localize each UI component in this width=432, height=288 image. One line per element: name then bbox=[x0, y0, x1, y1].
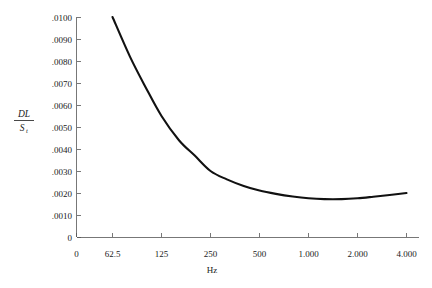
x-tick-label: 500 bbox=[253, 249, 267, 259]
x-tick-label: 2.000 bbox=[347, 249, 368, 259]
x-tick-label: 0 bbox=[74, 249, 79, 259]
y-tick-label: .0070 bbox=[52, 79, 73, 89]
y-axis-title: DL S t bbox=[14, 109, 34, 134]
y-axis-title-denominator-subscript: t bbox=[26, 127, 28, 134]
y-axis-title-numerator: DL bbox=[17, 109, 30, 119]
x-axis-tick-labels: 0 62.5 125 250 500 1.000 2.000 4.000 bbox=[74, 249, 417, 259]
y-tick-label: .0050 bbox=[52, 123, 73, 133]
x-tick-label: 125 bbox=[155, 249, 169, 259]
y-tick-label: .0030 bbox=[52, 167, 73, 177]
y-tick-label: .0020 bbox=[52, 189, 73, 199]
y-axis-ticks bbox=[77, 17, 82, 237]
x-tick-label: 62.5 bbox=[105, 249, 121, 259]
x-tick-label: 250 bbox=[204, 249, 218, 259]
y-tick-label: .0040 bbox=[52, 145, 73, 155]
data-series-line bbox=[113, 17, 407, 199]
y-axis-tick-labels: .0100 .0090 .0080 .0070 .0060 .0050 .004… bbox=[52, 13, 73, 243]
x-tick-label: 4.000 bbox=[396, 249, 417, 259]
y-tick-label: .0100 bbox=[52, 13, 73, 23]
y-tick-label: .0090 bbox=[52, 35, 73, 45]
x-axis-ticks bbox=[77, 233, 407, 238]
y-tick-label: .0080 bbox=[52, 57, 73, 67]
chart-svg: .0100 .0090 .0080 .0070 .0060 .0050 .004… bbox=[0, 0, 432, 288]
x-tick-label: 1.000 bbox=[298, 249, 319, 259]
y-tick-label: .0060 bbox=[52, 101, 73, 111]
x-axis-title: Hz bbox=[207, 265, 218, 275]
y-axis-title-denominator: S bbox=[20, 123, 25, 133]
chart-container: .0100 .0090 .0080 .0070 .0060 .0050 .004… bbox=[0, 0, 432, 288]
y-tick-label: 0 bbox=[68, 233, 73, 243]
y-tick-label: .0010 bbox=[52, 211, 73, 221]
